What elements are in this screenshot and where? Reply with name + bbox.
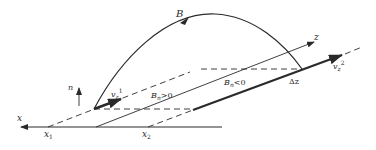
delta-z-label: Δz: [289, 77, 299, 86]
field-line-b-curve: [94, 14, 302, 109]
x-axis-label: x: [17, 113, 22, 123]
z-axis-label: z: [313, 32, 319, 42]
vz2-bold-line: [193, 55, 342, 110]
z-axis-line: [96, 42, 314, 127]
field-line-diagram: x x1 x2 z B vz1 n Bn>0 Bn<0 Δz vz2: [0, 0, 376, 150]
x2-label: x2: [142, 129, 151, 140]
dashed-line-lower: [148, 110, 193, 127]
vz1-label: vz1: [111, 87, 123, 100]
field-line-b-label: B: [175, 8, 183, 19]
bn-positive-label: Bn>0: [150, 91, 173, 101]
dashed-line-extension: [345, 47, 362, 54]
x1-label: x1: [44, 129, 53, 140]
normal-label: n: [68, 83, 73, 92]
bn-negative-label: Bn<0: [223, 78, 246, 88]
vz2-label: vz2: [333, 59, 345, 72]
